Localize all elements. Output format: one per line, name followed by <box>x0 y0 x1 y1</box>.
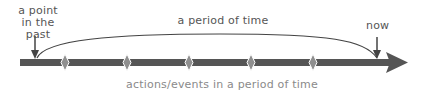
event-marker-diamond-icon <box>61 54 69 71</box>
event-marker-diamond-icon <box>185 54 193 71</box>
now-label: now <box>366 20 388 32</box>
event-marker-diamond-icon <box>247 54 255 71</box>
period-arc <box>37 34 377 58</box>
timeline-bar <box>20 59 392 66</box>
actions-events-caption: actions/events in a period of time <box>0 79 434 91</box>
now-pointer-arrow-icon <box>373 37 381 59</box>
event-marker-diamond-icon <box>309 54 317 71</box>
event-marker-diamond-icon <box>123 54 131 71</box>
